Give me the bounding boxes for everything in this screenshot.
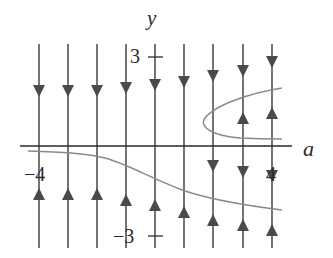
arrow-up-icon: [120, 194, 132, 206]
arrow-down-icon: [91, 85, 103, 97]
arrow-up-icon: [237, 219, 249, 231]
arrow-down-icon: [120, 82, 132, 94]
arrow-up-icon: [33, 188, 45, 200]
arrow-up-icon: [266, 224, 278, 236]
arrow-down-icon: [237, 166, 249, 178]
arrow-up-icon: [207, 214, 219, 226]
arrow-up-icon: [237, 112, 249, 124]
arrow-up-icon: [91, 188, 103, 200]
arrow-up-icon: [62, 188, 74, 200]
y-axis-label: y: [147, 8, 156, 29]
bifurcation-diagram: [0, 0, 333, 258]
tick-label-y-bottom: −3: [113, 226, 134, 246]
arrow-down-icon: [149, 79, 161, 91]
arrow-up-icon: [178, 206, 190, 218]
arrow-down-icon: [62, 85, 74, 97]
tick-label-x-right: 4: [266, 164, 276, 184]
arrow-up-icon: [266, 107, 278, 119]
arrow-up-icon: [149, 199, 161, 211]
arrow-down-icon: [207, 70, 219, 82]
a-axis-label: a: [303, 138, 314, 160]
tick-label-y-top: 3: [130, 46, 140, 66]
arrow-down-icon: [237, 65, 249, 77]
arrow-down-icon: [207, 160, 219, 172]
arrow-down-icon: [33, 85, 45, 97]
tick-label-x-left: −4: [24, 164, 45, 184]
arrow-down-icon: [178, 76, 190, 88]
arrow-down-icon: [266, 56, 278, 68]
